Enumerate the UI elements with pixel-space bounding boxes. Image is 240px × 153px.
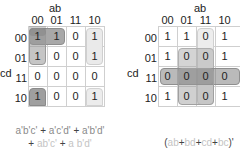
- kmap-cell: 1: [47, 26, 66, 46]
- kmap-cell: 1: [28, 26, 47, 46]
- kmap-cell: 0: [196, 86, 215, 106]
- grid-line: [104, 26, 105, 107]
- kmap-cell: 1: [28, 46, 47, 66]
- kmap-cell: 0: [85, 66, 104, 86]
- kmap-cell: 1: [85, 86, 104, 106]
- term: cd: [202, 137, 213, 148]
- right-row-var-label: cd: [127, 67, 141, 79]
- right-row-header: 11: [142, 72, 157, 84]
- right-col-header: 11: [196, 14, 215, 26]
- left-col-header: 10: [85, 14, 104, 26]
- right-col-header: 01: [177, 14, 196, 26]
- right-col-var-label: ab: [190, 2, 210, 14]
- kmap-cell: 0: [196, 46, 215, 66]
- left-row-header: 10: [12, 92, 27, 104]
- operator: +: [28, 138, 37, 149]
- right-col-header: 10: [215, 14, 234, 26]
- right-col-header: 00: [158, 14, 177, 26]
- operator: +: [37, 125, 48, 136]
- kmap-cell: 0: [66, 26, 85, 46]
- kmap-cell: 1: [215, 26, 234, 46]
- kmap-cell: 1: [158, 86, 177, 106]
- kmap-cell: 1: [85, 26, 104, 46]
- left-formula-line1: a'b'c' + a'c'd' + a'b'd': [4, 124, 116, 137]
- left-col-header: 01: [47, 14, 66, 26]
- right-row-header: 01: [142, 52, 157, 64]
- kmap-cell: 1: [215, 86, 234, 106]
- kmap-cell: 1: [158, 46, 177, 66]
- term: a'b'c': [16, 125, 38, 136]
- term: a'b'd': [82, 125, 104, 136]
- kmap-cell: 0: [177, 86, 196, 106]
- kmap-cell: 0: [196, 66, 215, 86]
- kmap-cell: 1: [28, 86, 47, 106]
- kmap-cell: 0: [66, 86, 85, 106]
- term: a b'd': [68, 138, 91, 149]
- left-col-var-label: ab: [45, 2, 65, 14]
- operator: )': [229, 137, 234, 148]
- kmap-cell: 0: [158, 66, 177, 86]
- kmap-cell: 0: [47, 46, 66, 66]
- kmap-cell: 0: [177, 46, 196, 66]
- kmap-cell: 0: [196, 26, 215, 46]
- kmap-cell: 0: [177, 66, 196, 86]
- kmap-cell: 0: [66, 46, 85, 66]
- kmap-cell: 0: [28, 66, 47, 86]
- right-row-header: 10: [142, 92, 157, 104]
- term: a'c'd': [49, 125, 71, 136]
- operator: +: [57, 138, 68, 149]
- right-row-header: 00: [142, 32, 157, 44]
- kmap-cell: 0: [66, 66, 85, 86]
- kmap-cell: 1: [215, 46, 234, 66]
- right-formula: (ab+bd+cd+bc)': [158, 136, 240, 149]
- left-col-header: 11: [66, 14, 85, 26]
- left-col-header: 00: [28, 14, 47, 26]
- term: bd: [185, 137, 196, 148]
- left-row-header: 11: [12, 72, 27, 84]
- kmap-cell: 1: [158, 26, 177, 46]
- left-row-header: 01: [12, 52, 27, 64]
- term: ab'c': [37, 138, 57, 149]
- kmap-cell: 0: [47, 86, 66, 106]
- term: ab: [168, 137, 179, 148]
- kmap-cell: 0: [47, 66, 66, 86]
- left-row-header: 00: [12, 32, 27, 44]
- kmap-cell: 0: [215, 66, 234, 86]
- operator: +: [71, 125, 82, 136]
- kmap-cell: 1: [177, 26, 196, 46]
- kmap-cell: 1: [85, 46, 104, 66]
- grid-line: [158, 106, 240, 107]
- left-formula-line2: + ab'c' + a b'd': [4, 137, 116, 150]
- term: bc: [218, 137, 229, 148]
